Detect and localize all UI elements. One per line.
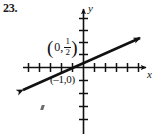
y-intercept-x-value: 0 <box>53 41 60 53</box>
fraction-numerator: 1 <box>65 37 72 46</box>
line-segment <box>23 38 140 90</box>
x-axis-label: x <box>146 68 152 80</box>
label-y-intercept: ( 0 , 1 2 ) <box>47 37 78 57</box>
figure-container: 23. y <box>0 0 160 139</box>
plotted-line <box>23 38 140 90</box>
coordinate-plot: y x <box>0 0 160 139</box>
y-axis-label: y <box>87 2 93 14</box>
x-axis: x <box>23 63 152 80</box>
y-intercept-close-paren: ) <box>71 38 77 57</box>
y-intercept-fraction: 1 2 <box>64 37 71 57</box>
label-x-intercept: (–1,0) <box>50 74 75 85</box>
fraction-denominator: 2 <box>65 48 72 57</box>
